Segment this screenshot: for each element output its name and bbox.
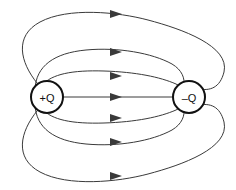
field-arrow-outer-top bbox=[110, 10, 122, 18]
field-arrow-group bbox=[110, 10, 122, 180]
field-line-mid-bottom bbox=[35, 105, 184, 145]
negative-charge: –Q bbox=[173, 81, 205, 113]
field-line-mid-top bbox=[35, 49, 184, 89]
positive-charge-label: +Q bbox=[40, 92, 55, 104]
dipole-field-figure: +Q –Q bbox=[0, 0, 236, 190]
positive-charge: +Q bbox=[31, 81, 63, 113]
field-arrow-inner-top bbox=[110, 72, 122, 80]
negative-charge-label: –Q bbox=[182, 92, 197, 104]
field-arrow-axis bbox=[110, 93, 122, 101]
electric-field-diagram: +Q –Q bbox=[0, 0, 236, 190]
field-arrow-outer-bottom bbox=[110, 172, 122, 180]
field-arrow-inner-bottom bbox=[110, 114, 122, 122]
